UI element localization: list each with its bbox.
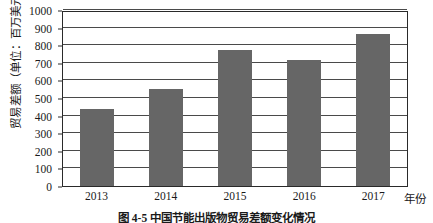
x-tick-label: 2014 [154,190,177,206]
bar-series [63,12,407,186]
y-tick-label: 900 [35,23,52,35]
x-tick-label: 2016 [293,190,316,206]
y-tick-label: 0 [46,181,52,193]
bar [80,109,114,186]
y-tick-label: 1000 [29,5,52,17]
figure-chart: 贸易差额（单位：百万美元） 01002003004005006007008009… [0,0,433,223]
plot-area [62,11,408,187]
figure-caption: 图 4-5 中国节能出版物贸易差额变化情况 [0,209,433,223]
bar [218,50,252,186]
y-tick-label: 200 [35,146,52,158]
x-tick-label: 2017 [362,190,385,206]
gridline [63,9,407,10]
y-tick-label: 700 [35,58,52,70]
x-tick-label: 2015 [223,190,246,206]
y-tick-label: 600 [35,75,52,87]
bar [149,89,183,186]
y-tick-label: 300 [35,128,52,140]
x-tick-label: 2013 [85,190,108,206]
y-tick-label: 100 [35,163,52,175]
y-tick-label: 500 [35,93,52,105]
x-axis-title: 年份 [404,190,426,206]
y-tick-label: 800 [35,40,52,52]
bar [287,60,321,186]
x-axis-ticks: 20132014201520162017 [62,190,408,206]
bar [356,34,390,186]
y-axis-ticks: 01002003004005006007008009001000 [0,11,58,187]
y-tick-label: 400 [35,111,52,123]
